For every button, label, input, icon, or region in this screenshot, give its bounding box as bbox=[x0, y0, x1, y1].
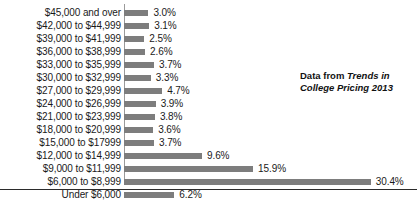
bar-row: $12,000 to $14,9999.6% bbox=[0, 149, 417, 162]
category-label: $9,000 to $11,999 bbox=[0, 163, 124, 174]
bottom-rule bbox=[0, 189, 417, 190]
bar-container: 3.0% bbox=[124, 6, 417, 19]
bar bbox=[124, 62, 154, 68]
bar-value-label: 3.7% bbox=[159, 137, 181, 148]
category-label: Under $6,000 bbox=[0, 189, 124, 200]
bar bbox=[124, 153, 202, 159]
bar-container: 9.6% bbox=[124, 149, 417, 162]
bar bbox=[124, 49, 145, 55]
bar bbox=[124, 127, 153, 133]
bar bbox=[124, 36, 144, 42]
bar bbox=[124, 166, 253, 172]
bar-value-label: 2.5% bbox=[149, 33, 171, 44]
bar bbox=[124, 192, 174, 198]
bar-row: $15,000 to $179993.7% bbox=[0, 136, 417, 149]
bar-chart: $45,000 and over3.0%$42,000 to $44,9993.… bbox=[0, 0, 417, 200]
plot-area: $45,000 and over3.0%$42,000 to $44,9993.… bbox=[0, 0, 417, 190]
bar bbox=[124, 179, 371, 185]
bar-value-label: 4.7% bbox=[167, 85, 189, 96]
bar bbox=[124, 23, 149, 29]
bar bbox=[124, 140, 154, 146]
bar-row: $9,000 to $11,99915.9% bbox=[0, 162, 417, 175]
bar-value-label: 3.6% bbox=[158, 124, 180, 135]
bar bbox=[124, 101, 156, 107]
category-label: $21,000 to $23,999 bbox=[0, 111, 124, 122]
category-label: $30,000 to $32,999 bbox=[0, 72, 124, 83]
bar-row: $6,000 to $8,99930.4% bbox=[0, 175, 417, 188]
bar-value-label: 30.4% bbox=[376, 176, 404, 187]
bar-value-label: 3.9% bbox=[161, 98, 183, 109]
bar-container: 30.4% bbox=[124, 175, 417, 188]
annotation-prefix: Data from bbox=[300, 70, 347, 81]
category-label: $27,000 to $29,999 bbox=[0, 85, 124, 96]
bar-value-label: 9.6% bbox=[207, 150, 229, 161]
bar-value-label: 3.8% bbox=[160, 111, 182, 122]
bar-value-label: 3.1% bbox=[154, 20, 176, 31]
bar bbox=[124, 114, 155, 120]
bar-container: 3.9% bbox=[124, 97, 417, 110]
category-label: $15,000 to $17999 bbox=[0, 137, 124, 148]
category-label: $45,000 and over bbox=[0, 7, 124, 18]
bar bbox=[124, 75, 151, 81]
bar-container: 15.9% bbox=[124, 162, 417, 175]
category-label: $12,000 to $14,999 bbox=[0, 150, 124, 161]
bar-value-label: 3.7% bbox=[159, 59, 181, 70]
bar-rows: $45,000 and over3.0%$42,000 to $44,9993.… bbox=[0, 6, 417, 200]
bar bbox=[124, 10, 148, 16]
bar-row: $24,000 to $26,9993.9% bbox=[0, 97, 417, 110]
bar-row: $45,000 and over3.0% bbox=[0, 6, 417, 19]
category-label: $36,000 to $38,999 bbox=[0, 46, 124, 57]
category-label: $18,000 to $20,999 bbox=[0, 124, 124, 135]
bar-row: $18,000 to $20,9993.6% bbox=[0, 123, 417, 136]
category-label: $24,000 to $26,999 bbox=[0, 98, 124, 109]
bar-value-label: 15.9% bbox=[258, 163, 286, 174]
category-label: $33,000 to $35,999 bbox=[0, 59, 124, 70]
bar-container: 2.6% bbox=[124, 45, 417, 58]
bar-container: 2.5% bbox=[124, 32, 417, 45]
bar-row: $42,000 to $44,9993.1% bbox=[0, 19, 417, 32]
bar-row: $36,000 to $38,9992.6% bbox=[0, 45, 417, 58]
bar-container: 3.7% bbox=[124, 136, 417, 149]
bar-value-label: 3.3% bbox=[156, 72, 178, 83]
bar-container: 3.6% bbox=[124, 123, 417, 136]
bar-value-label: 3.0% bbox=[153, 7, 175, 18]
category-label: $39,000 to $41,999 bbox=[0, 33, 124, 44]
bar-value-label: 2.6% bbox=[150, 46, 172, 57]
source-annotation: Data from Trends in College Pricing 2013 bbox=[300, 70, 412, 93]
bar-container: 3.8% bbox=[124, 110, 417, 123]
bar-container: 3.1% bbox=[124, 19, 417, 32]
bar-row: $21,000 to $23,9993.8% bbox=[0, 110, 417, 123]
category-label: $42,000 to $44,999 bbox=[0, 20, 124, 31]
bar-value-label: 6.2% bbox=[179, 189, 201, 200]
category-label: $6,000 to $8,999 bbox=[0, 176, 124, 187]
bar-row: $39,000 to $41,9992.5% bbox=[0, 32, 417, 45]
bar bbox=[124, 88, 162, 94]
